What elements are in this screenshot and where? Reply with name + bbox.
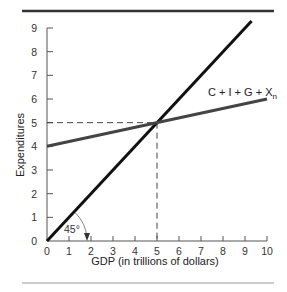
- x-tick-label: 9: [242, 245, 248, 257]
- x-tick-label: 8: [220, 245, 226, 257]
- y-tick-label: 5: [31, 117, 37, 129]
- y-tick-label: 1: [31, 211, 37, 223]
- chart: 0123456789100123456789 GDP (in trillions…: [0, 0, 287, 292]
- x-tick-label: 1: [66, 245, 72, 257]
- y-tick-label: 9: [31, 22, 37, 34]
- x-axis-title: GDP (in trillions of dollars): [91, 255, 219, 267]
- angle-label: 45°: [64, 223, 80, 235]
- y-tick-label: 4: [31, 140, 37, 152]
- angle-arrow-icon: [84, 233, 90, 241]
- x-tick-label: 0: [44, 245, 50, 257]
- y-tick-label: 0: [31, 235, 37, 247]
- line-45-degree: [47, 21, 252, 241]
- y-tick-label: 8: [31, 46, 37, 58]
- plot-lines: [47, 21, 267, 241]
- y-tick-label: 6: [31, 93, 37, 105]
- y-tick-label: 3: [31, 164, 37, 176]
- axes: 0123456789100123456789: [31, 22, 273, 257]
- y-tick-label: 7: [31, 69, 37, 81]
- x-tick-label: 10: [261, 245, 273, 257]
- y-tick-label: 2: [31, 188, 37, 200]
- y-axis-title: Expenditures: [14, 112, 26, 177]
